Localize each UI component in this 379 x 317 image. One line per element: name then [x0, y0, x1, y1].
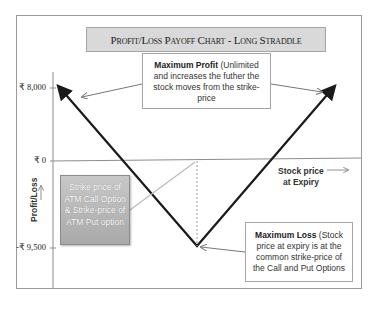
y-tick-0: ₹ 0: [6, 155, 46, 165]
y-tick-8000: ₹ 8,000: [6, 82, 46, 92]
y-axis-title: Profit/Loss: [29, 178, 39, 222]
chart-title: Profit/Loss Payoff Chart - Long Straddle: [86, 27, 326, 52]
y-tick-neg-9500: -₹ 9,500: [6, 242, 46, 252]
strike-price-note: Strike price of ATM Call Option & Strike…: [60, 175, 130, 245]
max-loss-label: Maximum Loss: [255, 230, 316, 240]
max-profit-label: Maximum Profit: [154, 60, 218, 70]
x-axis-title-line1: Stock price: [278, 166, 348, 177]
x-axis: [50, 158, 361, 161]
x-axis-title: Stock price at Expiry: [278, 166, 348, 188]
x-axis-title-line2: at Expiry: [278, 177, 348, 188]
max-loss-note: Maximum Loss (Stock price at expiry is a…: [245, 222, 353, 282]
max-profit-note: Maximum Profit (Unlimited and increases …: [142, 53, 271, 109]
